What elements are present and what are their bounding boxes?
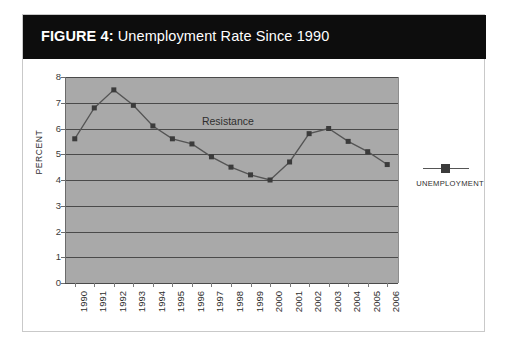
y-axis-tick-label: 3 bbox=[45, 201, 61, 211]
y-axis-tick-label: 6 bbox=[45, 124, 61, 134]
y-axis-tick-mark bbox=[61, 103, 65, 104]
x-axis-tick-label: 1993 bbox=[137, 291, 147, 312]
data-point-marker bbox=[131, 103, 136, 108]
x-axis-tick-label: 2002 bbox=[313, 291, 323, 312]
x-axis-tick-mark bbox=[231, 283, 232, 287]
x-axis-tick-mark bbox=[153, 283, 154, 287]
x-axis-tick-label: 1996 bbox=[196, 291, 206, 312]
x-axis-tick-label: 1992 bbox=[118, 291, 128, 312]
y-axis-tick-mark bbox=[61, 232, 65, 233]
y-axis-tick-mark bbox=[61, 283, 65, 284]
x-axis-tick-mark bbox=[290, 283, 291, 287]
x-axis-tick-mark bbox=[309, 283, 310, 287]
x-axis-tick-label: 2001 bbox=[294, 291, 304, 312]
x-axis-tick-mark bbox=[368, 283, 369, 287]
data-point-marker bbox=[170, 136, 175, 141]
data-point-marker bbox=[307, 131, 312, 136]
annotation-resistance: Resistance bbox=[202, 115, 254, 127]
x-axis-tick-mark bbox=[270, 283, 271, 287]
x-axis-tick-label: 2004 bbox=[352, 291, 362, 312]
y-axis-tick-label: 5 bbox=[45, 149, 61, 159]
page-title: FIGURE 4: Unemployment Rate Since 1990 bbox=[41, 28, 329, 44]
chart-legend: UNEMPLOYMENT bbox=[411, 163, 489, 188]
x-axis-tick-mark bbox=[75, 283, 76, 287]
data-point-marker bbox=[229, 165, 234, 170]
y-axis-tick-label: 4 bbox=[45, 175, 61, 185]
data-point-marker bbox=[287, 159, 292, 164]
series-unemployment bbox=[65, 77, 397, 283]
x-axis-tick-label: 1991 bbox=[98, 291, 108, 312]
figure-title-label: Unemployment Rate Since 1990 bbox=[114, 28, 330, 44]
data-point-marker bbox=[189, 141, 194, 146]
data-point-marker bbox=[268, 178, 273, 183]
x-axis-tick-label: 2003 bbox=[333, 291, 343, 312]
data-point-marker bbox=[72, 136, 77, 141]
y-axis-tick-label: 7 bbox=[45, 98, 61, 108]
y-axis-tick-mark bbox=[61, 154, 65, 155]
data-point-marker bbox=[346, 139, 351, 144]
y-axis-tick-label: 2 bbox=[45, 227, 61, 237]
x-axis-tick-mark bbox=[133, 283, 134, 287]
x-axis-tick-label: 1997 bbox=[215, 291, 225, 312]
data-point-marker bbox=[92, 105, 97, 110]
data-point-marker bbox=[150, 123, 155, 128]
y-axis-tick-label: 8 bbox=[45, 72, 61, 82]
legend-item-label: UNEMPLOYMENT bbox=[411, 179, 489, 188]
x-axis-tick-label: 1999 bbox=[255, 291, 265, 312]
chart-area: 876543210 PERCENT Resistance UNEMPLOYMEN… bbox=[23, 59, 486, 332]
x-axis-tick-label: 1990 bbox=[79, 291, 89, 312]
data-point-marker bbox=[209, 154, 214, 159]
x-axis-tick-label: 1998 bbox=[235, 291, 245, 312]
x-axis-tick-mark bbox=[114, 283, 115, 287]
x-axis-tick-label: 1994 bbox=[157, 291, 167, 312]
x-axis-tick-label: 2000 bbox=[274, 291, 284, 312]
filled-square-marker-icon bbox=[441, 164, 450, 173]
x-axis-tick-mark bbox=[172, 283, 173, 287]
figure-number-label: FIGURE 4: bbox=[41, 28, 114, 44]
y-axis-tick-mark bbox=[61, 206, 65, 207]
x-axis-tick-label: 2005 bbox=[372, 291, 382, 312]
y-axis-tick-mark bbox=[61, 180, 65, 181]
data-point-marker bbox=[365, 149, 370, 154]
x-axis-tick-mark bbox=[387, 283, 388, 287]
data-point-marker bbox=[111, 87, 116, 92]
x-axis-tick-mark bbox=[192, 283, 193, 287]
x-axis-tick-mark bbox=[329, 283, 330, 287]
x-axis-tick-label: 1995 bbox=[176, 291, 186, 312]
figure-container: FIGURE 4: Unemployment Rate Since 1990 8… bbox=[22, 14, 485, 332]
y-axis-tick-mark bbox=[61, 129, 65, 130]
y-axis-tick-mark bbox=[61, 257, 65, 258]
x-axis-tick-label: 2006 bbox=[391, 291, 401, 312]
x-axis-tick-mark bbox=[211, 283, 212, 287]
data-point-marker bbox=[326, 126, 331, 131]
data-point-marker bbox=[248, 172, 253, 177]
figure-title-bar: FIGURE 4: Unemployment Rate Since 1990 bbox=[23, 15, 486, 59]
x-axis-tick-mark bbox=[348, 283, 349, 287]
y-axis-title: PERCENT bbox=[34, 112, 44, 192]
data-point-marker bbox=[385, 162, 390, 167]
y-axis-tick-label: 0 bbox=[45, 278, 61, 288]
y-axis-tick-label: 1 bbox=[45, 252, 61, 262]
legend-swatch bbox=[411, 163, 489, 175]
y-axis-tick-mark bbox=[61, 77, 65, 78]
x-axis-tick-mark bbox=[94, 283, 95, 287]
x-axis-tick-mark bbox=[251, 283, 252, 287]
